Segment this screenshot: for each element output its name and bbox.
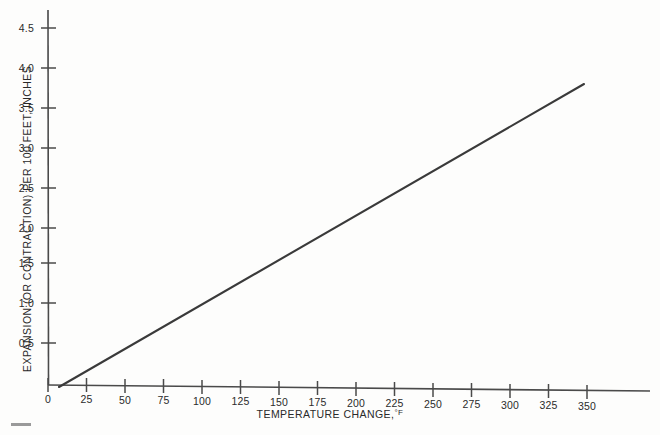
x-tick-label: 125 [224,395,258,407]
x-tick-label: 100 [185,395,219,407]
x-axis-title-text: TEMPERATURE CHANGE, [257,408,395,420]
x-tick-label: 25 [70,393,104,405]
y-axis-title: EXPANSION (OR CONTRACTION) PER 100 FEET,… [18,0,36,372]
degree-fahrenheit-icon: °F [394,408,403,417]
data-series-line [59,84,584,387]
x-axis-title: TEMPERATURE CHANGE,°F [0,408,660,420]
plot-area [0,0,660,435]
y-axis-line [48,10,49,385]
x-tick-label: 175 [301,396,335,408]
x-tick-label: 50 [108,394,142,406]
chart-figure: 0.5 1.0 1.5 2.0 2.5 3.0 3.5 4.0 4.5 0 25… [0,0,660,435]
x-axis-line [48,385,650,391]
x-tick-label: 0 [31,393,65,405]
scan-edge-dash [11,423,31,426]
x-tick-label: 75 [147,394,181,406]
x-tick-label: 150 [262,396,296,408]
